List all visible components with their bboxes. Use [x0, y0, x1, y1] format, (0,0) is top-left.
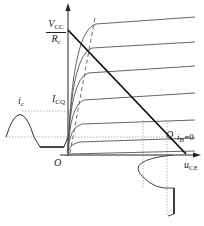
- ic-axis-arrow-icon: [66, 3, 71, 11]
- ic-waveform: [6, 115, 68, 148]
- uce-axis-arrow-icon: [193, 153, 201, 158]
- q-point-label: Q: [166, 130, 173, 140]
- icq-label: ICQ: [52, 94, 65, 106]
- uce-axis-label: uCE: [184, 160, 198, 172]
- origin-label: O: [54, 158, 61, 168]
- characteristics-diagram: [0, 0, 204, 226]
- output-curves: [68, 17, 195, 154]
- vcc-over-rc-label: VCC Rc: [46, 19, 66, 46]
- uce-waveform: [138, 155, 174, 216]
- ib-zero-label: iB=0: [177, 133, 194, 144]
- ic-wave-label: ic: [18, 96, 24, 108]
